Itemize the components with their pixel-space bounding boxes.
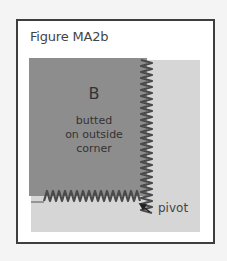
pivot-label: pivot [158, 201, 188, 215]
zigzag-stitches [0, 0, 227, 261]
horizontal-stitch-icon [44, 191, 140, 201]
vertical-stitch-icon [141, 60, 152, 213]
